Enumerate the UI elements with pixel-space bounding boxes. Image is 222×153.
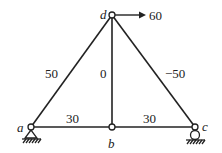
load-label: 60 [149,8,162,23]
joint-b [109,124,115,130]
node-label-d: d [100,7,107,22]
pin-support-icon [22,130,41,143]
node-label-a: a [17,120,24,135]
joint-d [109,12,115,18]
truss-diagram: d a b c 50 0 −50 30 30 60 [0,0,222,153]
load-arrow-icon [115,12,146,19]
node-label-b: b [108,136,115,151]
force-label-ab: 30 [66,111,79,126]
force-label-bc: 30 [143,111,156,126]
node-label-c: c [202,119,208,134]
force-label-cd: −50 [165,66,185,81]
joint-a [28,124,34,130]
force-label-ad: 50 [45,66,58,81]
force-label-bd: 0 [100,66,107,81]
joint-c [192,124,198,130]
